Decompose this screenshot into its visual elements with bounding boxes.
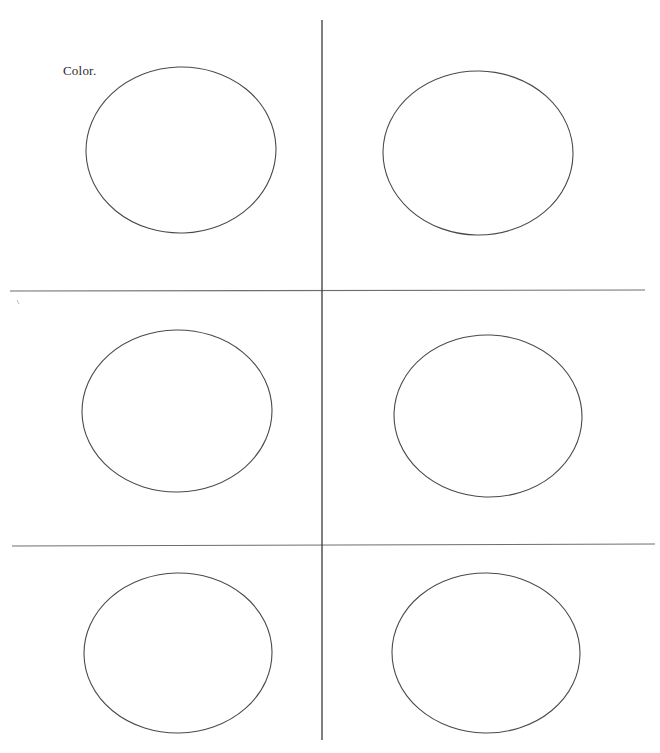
horizontal-divider-upper [10, 290, 645, 291]
circles-group [81, 64, 585, 735]
scanned-page: Color. [0, 0, 660, 753]
color-label: Color. [63, 64, 96, 77]
tick-marks-group [17, 300, 19, 304]
scan-drawing-canvas [0, 0, 660, 753]
circle-row2-col1 [81, 328, 274, 493]
circle-row3-col2 [391, 571, 582, 734]
rules-group [10, 20, 655, 740]
circle-row1-col1 [83, 64, 279, 237]
circle-row1-col2 [382, 69, 575, 236]
left-margin-tick [17, 300, 19, 304]
circle-row3-col1 [83, 571, 274, 734]
horizontal-divider-lower [12, 544, 655, 546]
circle-row2-col2 [391, 332, 585, 500]
